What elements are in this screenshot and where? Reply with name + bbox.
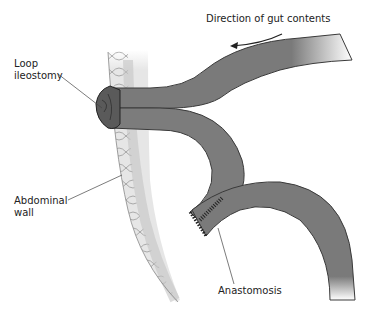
label-abdominal-wall: Abdominal wall bbox=[14, 195, 67, 219]
label-loop-line2: ileostomy bbox=[14, 70, 63, 82]
bowel-loop bbox=[190, 182, 355, 300]
label-direction: Direction of gut contents bbox=[206, 13, 330, 25]
label-anastomosis: Anastomosis bbox=[218, 285, 282, 297]
stoma bbox=[96, 86, 120, 129]
label-wall-line2: wall bbox=[14, 207, 67, 219]
leader-line-anastomosis bbox=[218, 228, 234, 284]
label-loop-ileostomy: Loop ileostomy bbox=[14, 58, 63, 82]
loop-ileostomy-diagram bbox=[0, 0, 367, 313]
label-wall-line1: Abdominal bbox=[14, 195, 67, 207]
leader-line-loop-ileostomy bbox=[58, 74, 102, 108]
label-loop-line1: Loop bbox=[14, 58, 63, 70]
leader-line-abdominal-wall bbox=[68, 175, 122, 200]
